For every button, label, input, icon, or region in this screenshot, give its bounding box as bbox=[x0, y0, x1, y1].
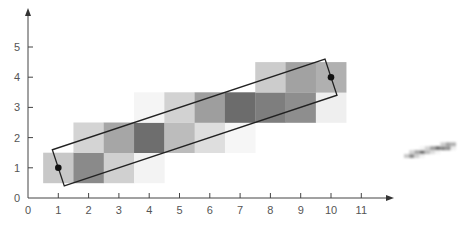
thumbnail-cell bbox=[420, 146, 425, 150]
thumbnail-cell bbox=[446, 142, 451, 146]
x-axis-arrow-icon bbox=[386, 195, 394, 201]
thumbnail-cell bbox=[409, 150, 414, 154]
thumbnail-preview bbox=[404, 142, 456, 158]
y-tick-label: 4 bbox=[14, 71, 20, 83]
x-tick-label: 9 bbox=[298, 204, 304, 216]
thumbnail-cell bbox=[451, 142, 456, 146]
x-tick-label: 5 bbox=[176, 204, 182, 216]
x-tick-label: 4 bbox=[146, 204, 152, 216]
thumbnail-cell bbox=[425, 150, 430, 154]
pixel-cell bbox=[255, 92, 286, 123]
y-tick-label: 1 bbox=[14, 162, 20, 174]
x-tick-label: 0 bbox=[25, 204, 31, 216]
y-tick-label: 3 bbox=[14, 101, 20, 113]
x-tick-label: 7 bbox=[237, 204, 243, 216]
x-tick-label: 11 bbox=[356, 204, 367, 216]
x-tick-label: 10 bbox=[325, 204, 337, 216]
thumbnail-cell bbox=[430, 150, 435, 154]
x-tick-label: 1 bbox=[55, 204, 61, 216]
thumbnail-cell bbox=[435, 146, 440, 150]
thumbnail-cell bbox=[430, 146, 435, 150]
pixel-line-diagram: 01234567891011 012345 bbox=[0, 0, 471, 229]
thumbnail-cell bbox=[435, 150, 440, 154]
x-tick-label: 3 bbox=[116, 204, 122, 216]
x-tick-label: 2 bbox=[86, 204, 92, 216]
thumbnail-cell bbox=[404, 154, 409, 158]
y-tick-label: 2 bbox=[14, 132, 20, 144]
x-tick-label: 6 bbox=[207, 204, 213, 216]
thumbnail-cell bbox=[420, 150, 425, 154]
thumbnail-cell bbox=[425, 146, 430, 150]
thumbnail-cell bbox=[414, 150, 419, 154]
thumbnail-cell bbox=[451, 146, 456, 150]
y-axis-arrow-icon bbox=[25, 8, 31, 16]
endpoint-dot bbox=[55, 165, 62, 172]
pixel-cell bbox=[134, 92, 165, 123]
y-tick-label: 0 bbox=[14, 192, 20, 204]
pixel-cell bbox=[164, 123, 195, 154]
pixel-cell bbox=[73, 153, 104, 184]
thumbnail-cell bbox=[446, 146, 451, 150]
x-tick-label: 8 bbox=[267, 204, 273, 216]
pixel-cell bbox=[134, 123, 165, 154]
y-axis-ticks: 012345 bbox=[14, 41, 33, 204]
endpoint-dot bbox=[328, 74, 335, 81]
thumbnail-cell bbox=[420, 154, 425, 158]
pixel-cell bbox=[225, 92, 256, 123]
y-tick-label: 5 bbox=[14, 41, 20, 53]
thumbnail-cell bbox=[414, 154, 419, 158]
thumbnail-cell bbox=[409, 154, 414, 158]
thumbnail-cell bbox=[440, 146, 445, 150]
pixel-grid bbox=[43, 62, 346, 183]
thumbnail-cell bbox=[440, 142, 445, 146]
x-axis-ticks: 01234567891011 bbox=[25, 193, 367, 216]
